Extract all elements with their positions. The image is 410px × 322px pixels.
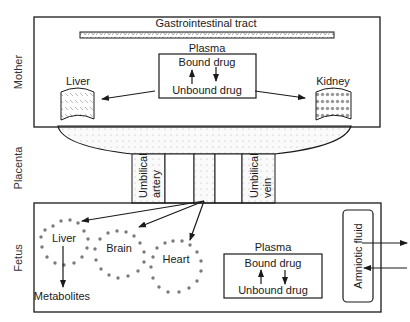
drug-distribution-diagram: Mother Placenta Fetus Gastrointestinal t…: [0, 0, 410, 322]
fetal-bound-drug: Bound drug: [245, 257, 302, 269]
mother-liver-icon: [61, 88, 94, 120]
mother-kidney-icon: [316, 88, 351, 120]
arrow-to-kidney-icon: [255, 91, 305, 98]
fetal-heart-outline: [149, 239, 202, 293]
gi-tract-bar: [80, 32, 334, 38]
section-label-placenta: Placenta: [12, 146, 24, 190]
section-label-mother: Mother: [12, 55, 24, 90]
umbilical-vein-label-2: vein: [261, 178, 273, 198]
arrow-to-fetal-brain-icon: [139, 201, 204, 227]
fetal-unbound-drug: Unbound drug: [238, 284, 308, 296]
fetal-plasma-title: Plasma: [255, 241, 293, 253]
cord-center-channel: [194, 154, 215, 203]
mother-bound-drug: Bound drug: [179, 56, 236, 68]
fetal-brain-label: Brain: [106, 242, 132, 254]
umbilical-artery-label-2: artery: [150, 169, 162, 198]
mother-liver-label: Liver: [66, 75, 90, 87]
amniotic-fluid-label: Amniotic fluid: [352, 223, 364, 288]
cord-gap-right: [215, 154, 242, 203]
fetal-heart-label: Heart: [163, 253, 190, 265]
metabolites-label: Metabolites: [34, 290, 91, 302]
placenta-shape: [58, 126, 351, 154]
fetal-liver-label: Liver: [52, 232, 76, 244]
arrow-to-fetal-heart-icon: [190, 201, 204, 240]
cord-gap-left: [165, 154, 194, 203]
section-label-fetus: Fetus: [12, 244, 24, 272]
arrow-to-fetal-liver-icon: [82, 201, 204, 221]
umbilical-artery-label-1: Umbilical: [137, 153, 149, 198]
mother-unbound-drug: Unbound drug: [172, 84, 242, 96]
mother-kidney-label: Kidney: [316, 75, 350, 87]
umbilical-vein-label-1: Umbilical: [248, 153, 260, 198]
gi-tract-label: Gastrointestinal tract: [156, 17, 257, 29]
arrow-to-liver-icon: [102, 91, 155, 99]
mother-plasma-title: Plasma: [189, 42, 227, 54]
fetal-brain-outline: [93, 229, 145, 279]
